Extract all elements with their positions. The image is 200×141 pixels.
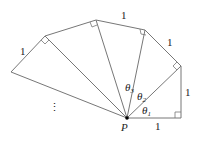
angle-label-theta2: θ2	[137, 90, 146, 104]
angle-label-theta1: θ1	[142, 104, 151, 118]
spoke-P-A5	[11, 72, 127, 118]
spiral-diagram: P 1 1 1 1 1 θ1 θ2 θ3 ⋮	[0, 0, 200, 141]
spoke-P-A3	[96, 20, 127, 118]
angle-label-theta3: θ3	[125, 81, 134, 95]
side-label-upper-right: 1	[167, 36, 173, 48]
edge-A1-A2	[145, 30, 181, 66]
right-angle-marker-A1	[173, 62, 177, 70]
right-angle-marker-A4	[41, 40, 49, 44]
point-label-P: P	[120, 121, 128, 133]
edge-A2-A3	[96, 20, 145, 30]
side-label-bottom: 1	[155, 120, 161, 132]
right-angle-marker-A0	[175, 112, 181, 118]
spoke-P-A1	[127, 66, 181, 118]
side-label-right: 1	[185, 86, 191, 98]
right-angle-marker-A3	[90, 22, 97, 27]
side-label-left: 1	[20, 45, 26, 57]
point-P	[125, 116, 129, 120]
side-label-top: 1	[121, 9, 127, 21]
edge-A4-A5	[11, 36, 45, 72]
continuation-ellipsis: ⋮	[49, 101, 60, 113]
edge-A3-A4	[45, 20, 96, 36]
